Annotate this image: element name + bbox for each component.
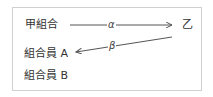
node-kou-kumiai: 甲組合 <box>25 18 58 31</box>
edge-label-beta: β <box>108 40 116 51</box>
arrow-beta <box>76 37 172 52</box>
edge-label-alpha: α <box>107 19 116 30</box>
node-otsu: 乙 <box>182 18 193 31</box>
node-member-a: 組合員 A <box>24 47 68 60</box>
node-member-b: 組合員 B <box>24 69 68 82</box>
